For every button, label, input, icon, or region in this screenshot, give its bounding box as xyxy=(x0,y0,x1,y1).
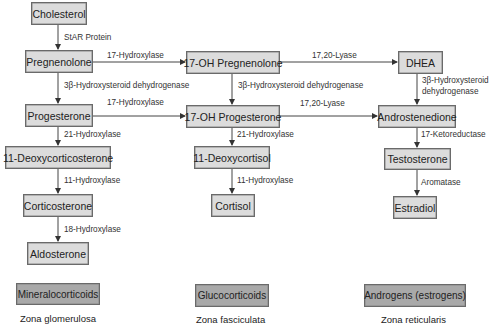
enzyme-21-hydroxylase-2: 21-Hydroxylase xyxy=(237,130,294,140)
enzyme-17-20-lyase-1: 17,20-Lyase xyxy=(312,51,357,61)
enzyme-3b-hsd-3b: dehydrogenase xyxy=(422,87,478,97)
node-aldosterone: Aldosterone xyxy=(27,242,89,265)
category-androgens: Androgens (estrogens) xyxy=(364,284,466,307)
node-progesterone: Progesterone xyxy=(25,104,93,127)
category-glucocorticoids: Glucocorticoids xyxy=(195,284,269,307)
enzyme-21-hydroxylase-1: 21-Hydroxylase xyxy=(64,130,121,140)
node-17oh-pregnenolone: 17-OH Pregnenolone xyxy=(186,51,280,74)
node-11-deoxycorticosterone: 11-Deoxycorticosterone xyxy=(5,146,111,169)
node-cholesterol: Cholesterol xyxy=(31,2,87,25)
enzyme-11-hydroxylase-2: 11-Hydroxylase xyxy=(237,176,293,186)
enzyme-3b-hsd-1: 3β-Hydroxysteroid dehydrogenase xyxy=(64,81,189,91)
enzyme-star-protein: StAR Protein xyxy=(64,33,111,43)
enzyme-17-hydroxylase-2: 17-Hydroxylase xyxy=(107,98,164,108)
node-pregnenolone: Pregnenolone xyxy=(25,50,93,73)
node-estradiol: Estradiol xyxy=(393,196,437,219)
zone-glomerulosa: Zona glomerulosa xyxy=(20,313,96,324)
zone-reticularis: Zona reticularis xyxy=(381,314,446,325)
node-11-deoxycortisol: 11-Deoxycortisol xyxy=(194,146,270,169)
enzyme-18-hydroxylase: 18-Hydroxylase xyxy=(64,225,121,235)
enzyme-17-hydroxylase-1: 17-Hydroxylase xyxy=(107,51,164,61)
zone-fasciculata: Zona fasciculata xyxy=(196,314,265,325)
enzyme-17-ketoreductase: 17-Ketoreductase xyxy=(421,130,486,140)
enzyme-17-20-lyase-2: 17,20-Lyase xyxy=(300,99,345,109)
node-testosterone: Testosterone xyxy=(384,148,451,170)
node-dhea: DHEA xyxy=(398,51,443,74)
enzyme-aromatase: Aromatase xyxy=(421,178,461,188)
enzyme-3b-hsd-3a: 3β-Hydroxysteroid xyxy=(422,76,489,86)
node-17oh-progesterone: 17-OH Progesterone xyxy=(186,105,280,128)
enzyme-11-hydroxylase-1: 11-Hydroxylase xyxy=(64,176,120,186)
node-cortisol: Cortisol xyxy=(211,194,255,217)
node-corticosterone: Corticosterone xyxy=(23,194,93,217)
category-mineralocorticoids: Mineralocorticoids xyxy=(16,283,100,305)
enzyme-3b-hsd-2: 3β-Hydroxysteroid dehydrogenase xyxy=(238,81,363,91)
node-androstenedione: Androstenedione xyxy=(378,105,456,128)
